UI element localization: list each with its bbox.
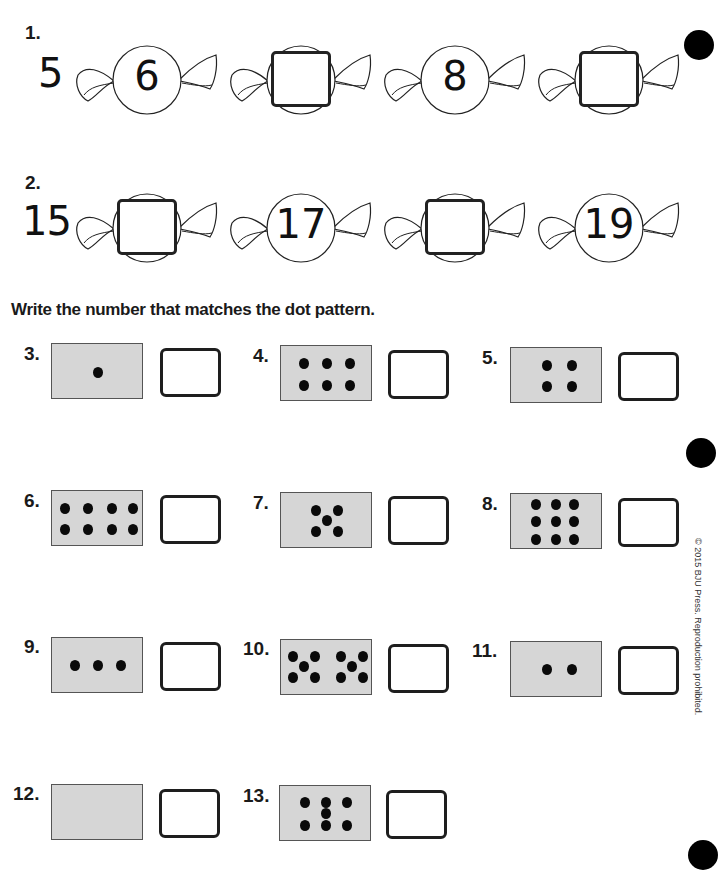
dot bbox=[70, 660, 80, 671]
answer-box-3[interactable] bbox=[160, 348, 221, 397]
dot bbox=[60, 503, 70, 514]
dot bbox=[531, 534, 541, 545]
dot-pattern-12 bbox=[51, 784, 143, 840]
problem-1-start-number: 5 bbox=[38, 50, 62, 96]
dot bbox=[336, 672, 346, 683]
dot bbox=[128, 524, 138, 535]
dot bbox=[531, 499, 541, 510]
dot bbox=[288, 651, 298, 662]
dot bbox=[322, 515, 332, 526]
dot bbox=[288, 672, 298, 683]
dot bbox=[321, 820, 331, 831]
dot-pattern-6 bbox=[51, 490, 143, 546]
problem-7-number: 7. bbox=[253, 492, 269, 514]
candy-2-1 bbox=[72, 193, 222, 263]
dot bbox=[310, 672, 320, 683]
dot bbox=[567, 664, 577, 675]
candy-1-4 bbox=[534, 45, 684, 115]
problem-8-number: 8. bbox=[482, 493, 498, 515]
answer-box-4[interactable] bbox=[388, 350, 449, 399]
dot-pattern-3 bbox=[51, 343, 143, 399]
problem-12-number: 12. bbox=[13, 783, 39, 805]
dot bbox=[333, 505, 343, 516]
problem-10-number: 10. bbox=[243, 638, 269, 660]
problem-4-number: 4. bbox=[253, 345, 269, 367]
answer-box-13[interactable] bbox=[386, 790, 447, 839]
dot bbox=[93, 367, 103, 378]
answer-box-12[interactable] bbox=[159, 789, 220, 838]
dot bbox=[567, 360, 577, 371]
candy-answer-box[interactable] bbox=[579, 51, 639, 107]
dot bbox=[299, 358, 309, 369]
dot bbox=[542, 360, 552, 371]
problem-2-start-number: 15 bbox=[22, 198, 71, 244]
dot bbox=[345, 380, 355, 391]
punch-hole-middle bbox=[686, 438, 716, 468]
dot-pattern-11 bbox=[510, 641, 602, 697]
dot bbox=[336, 651, 346, 662]
dot-pattern-13 bbox=[279, 785, 371, 841]
candy-2-4: 19 bbox=[534, 193, 684, 263]
dot bbox=[551, 499, 561, 510]
dot bbox=[322, 358, 332, 369]
dot bbox=[107, 524, 117, 535]
dot bbox=[531, 516, 541, 527]
dot bbox=[128, 503, 138, 514]
answer-box-10[interactable] bbox=[388, 644, 449, 693]
dot bbox=[83, 524, 93, 535]
problem-5-number: 5. bbox=[482, 347, 498, 369]
dot bbox=[342, 797, 352, 808]
dot bbox=[358, 651, 368, 662]
dot bbox=[358, 672, 368, 683]
candy-1-2 bbox=[226, 45, 376, 115]
dot-pattern-5 bbox=[510, 347, 602, 403]
candy-1-1: 6 bbox=[72, 45, 222, 115]
dot bbox=[347, 661, 357, 672]
problem-1-number: 1. bbox=[25, 22, 41, 44]
dot-pattern-7 bbox=[280, 492, 372, 548]
problem-9-number: 9. bbox=[24, 636, 40, 658]
candy-answer-box[interactable] bbox=[271, 51, 331, 107]
problem-13-number: 13. bbox=[243, 785, 269, 807]
answer-box-7[interactable] bbox=[388, 496, 449, 545]
problem-2-number: 2. bbox=[25, 172, 41, 194]
problem-6-number: 6. bbox=[24, 490, 40, 512]
answer-box-6[interactable] bbox=[160, 495, 221, 544]
answer-box-9[interactable] bbox=[160, 642, 221, 691]
dot bbox=[569, 534, 579, 545]
candy-answer-box[interactable] bbox=[117, 199, 177, 255]
candy-number: 17 bbox=[266, 201, 336, 247]
candy-2-2: 17 bbox=[226, 193, 376, 263]
punch-hole-top bbox=[684, 30, 714, 60]
answer-box-8[interactable] bbox=[618, 498, 679, 547]
dot bbox=[311, 526, 321, 537]
problem-3-number: 3. bbox=[24, 343, 40, 365]
dot bbox=[569, 516, 579, 527]
dot bbox=[345, 358, 355, 369]
dot bbox=[333, 526, 343, 537]
dot bbox=[542, 664, 552, 675]
problem-11-number: 11. bbox=[472, 640, 497, 662]
candy-number: 8 bbox=[420, 53, 490, 99]
instruction-text: Write the number that matches the dot pa… bbox=[11, 300, 375, 320]
dot-pattern-9 bbox=[51, 637, 143, 693]
dot bbox=[321, 797, 331, 808]
dot bbox=[542, 381, 552, 392]
dot bbox=[300, 797, 310, 808]
dot bbox=[311, 505, 321, 516]
dot bbox=[321, 808, 331, 819]
candy-answer-box[interactable] bbox=[425, 199, 485, 255]
dot bbox=[107, 503, 117, 514]
dot bbox=[299, 380, 309, 391]
dot bbox=[83, 503, 93, 514]
dot bbox=[300, 820, 310, 831]
answer-box-11[interactable] bbox=[618, 646, 679, 695]
candy-1-3: 8 bbox=[380, 45, 530, 115]
candy-number: 19 bbox=[574, 201, 644, 247]
dot-pattern-8 bbox=[510, 493, 602, 549]
dot bbox=[551, 516, 561, 527]
dot bbox=[569, 499, 579, 510]
answer-box-5[interactable] bbox=[618, 352, 679, 401]
candy-2-3 bbox=[380, 193, 530, 263]
dot bbox=[322, 380, 332, 391]
